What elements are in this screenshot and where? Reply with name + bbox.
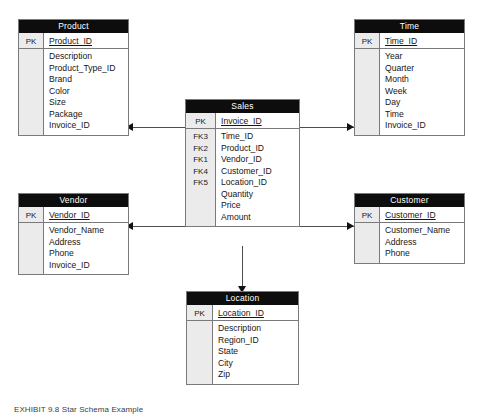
entity-product-pk-field: Product_ID — [44, 33, 128, 48]
entity-sales-pk-field: Invoice_ID — [216, 113, 299, 128]
field-row: Region_ID — [218, 335, 298, 347]
field-row: Description — [49, 51, 128, 63]
entity-product[interactable]: Product PK Product_ID Description Produc… — [18, 19, 129, 136]
entity-product-pk-row: PK Product_ID — [19, 33, 128, 49]
field-row: City — [218, 358, 298, 370]
entity-sales-body: FK3 FK2 FK1 FK4 FK5 Time_ID Product_ID V… — [186, 129, 299, 226]
entity-location-body: Description Region_ID State City Zip — [187, 321, 298, 384]
fk-tag: FK5 — [186, 177, 215, 189]
fk-tag: FK3 — [186, 131, 215, 143]
field-row: Vendor_ID — [221, 154, 299, 166]
entity-vendor-title: Vendor — [19, 194, 128, 207]
fk-tag: FK2 — [186, 143, 215, 155]
entity-customer-pk-tag: PK — [355, 207, 380, 222]
entity-vendor-pk-tag: PK — [19, 207, 44, 222]
field-row: Brand — [49, 74, 128, 86]
field-row: Product_Type_ID — [49, 63, 128, 75]
entity-product-key-column — [19, 49, 44, 135]
entity-sales-key-column: FK3 FK2 FK1 FK4 FK5 — [186, 129, 216, 226]
entity-customer-key-column — [355, 223, 380, 263]
fk-tag: FK4 — [186, 166, 215, 178]
entity-sales-pk-row: PK Invoice_ID — [186, 113, 299, 129]
entity-time-title: Time — [355, 20, 464, 33]
entity-sales-fields: Time_ID Product_ID Vendor_ID Customer_ID… — [216, 129, 299, 226]
entity-vendor-pk-field: Vendor_ID — [44, 207, 128, 222]
entity-customer[interactable]: Customer PK Customer_ID Customer_Name Ad… — [354, 193, 465, 264]
entity-customer-body: Customer_Name Address Phone — [355, 223, 464, 263]
entity-time-body: Year Quarter Month Week Day Time Invoice… — [355, 49, 464, 135]
field-row: Package — [49, 109, 128, 121]
field-row: Invoice_ID — [385, 120, 464, 132]
fk-tag — [186, 200, 215, 212]
connector-sales-to-customer — [300, 226, 354, 227]
connector-sales-to-product — [129, 127, 185, 128]
field-row: Price — [221, 200, 299, 212]
field-row: Address — [49, 237, 128, 249]
field-row: Year — [385, 51, 464, 63]
connector-sales-to-location — [242, 246, 243, 289]
connector-sales-to-vendor — [129, 226, 185, 227]
field-row: Month — [385, 74, 464, 86]
entity-product-body: Description Product_Type_ID Brand Color … — [19, 49, 128, 135]
fk-tag — [186, 189, 215, 201]
entity-time-pk-tag: PK — [355, 33, 380, 48]
field-row: Color — [49, 86, 128, 98]
entity-location-pk-row: PK Location_ID — [187, 305, 298, 321]
fk-tag: FK1 — [186, 154, 215, 166]
entity-time-pk-row: PK Time_ID — [355, 33, 464, 49]
entity-product-pk-tag: PK — [19, 33, 44, 48]
fk-tag — [186, 212, 215, 224]
entity-customer-pk-row: PK Customer_ID — [355, 207, 464, 223]
field-row: Address — [385, 237, 464, 249]
field-row: Quantity — [221, 189, 299, 201]
field-row: Time — [385, 109, 464, 121]
entity-product-title: Product — [19, 20, 128, 33]
entity-time[interactable]: Time PK Time_ID Year Quarter Month Week — [354, 19, 465, 136]
entity-customer-title: Customer — [355, 194, 464, 207]
field-row: Location_ID — [221, 177, 299, 189]
entity-customer-pk-field: Customer_ID — [380, 207, 464, 222]
field-row: Phone — [385, 248, 464, 260]
field-row: Description — [218, 323, 298, 335]
field-row: Invoice_ID — [49, 120, 128, 132]
diagram-canvas: Product PK Product_ID Description Produc… — [0, 0, 477, 415]
entity-vendor-body: Vendor_Name Address Phone Invoice_ID — [19, 223, 128, 274]
entity-customer-fields: Customer_Name Address Phone — [380, 223, 464, 263]
figure-caption: EXHIBIT 9.8 Star Schema Example — [14, 405, 143, 415]
field-row: Invoice_ID — [49, 260, 128, 272]
entity-location-title: Location — [187, 292, 298, 305]
entity-sales-title: Sales — [186, 100, 299, 113]
entity-location[interactable]: Location PK Location_ID Description Regi… — [186, 291, 299, 385]
entity-vendor[interactable]: Vendor PK Vendor_ID Vendor_Name Address … — [18, 193, 129, 275]
entity-location-fields: Description Region_ID State City Zip — [213, 321, 298, 384]
entity-vendor-key-column — [19, 223, 44, 274]
field-row: Product_ID — [221, 143, 299, 155]
field-row: Time_ID — [221, 131, 299, 143]
field-row: Customer_Name — [385, 225, 464, 237]
field-row: Amount — [221, 212, 299, 224]
field-row: Week — [385, 86, 464, 98]
arrow-head-customer — [347, 222, 354, 230]
entity-sales[interactable]: Sales PK Invoice_ID FK3 FK2 FK1 FK4 FK5 … — [185, 99, 300, 227]
field-row: Day — [385, 97, 464, 109]
entity-vendor-fields: Vendor_Name Address Phone Invoice_ID — [44, 223, 128, 274]
field-row: Customer_ID — [221, 166, 299, 178]
entity-time-fields: Year Quarter Month Week Day Time Invoice… — [380, 49, 464, 135]
entity-location-pk-field: Location_ID — [213, 305, 298, 320]
field-row: Vendor_Name — [49, 225, 128, 237]
field-row: Zip — [218, 369, 298, 381]
field-row: Quarter — [385, 63, 464, 75]
entity-vendor-pk-row: PK Vendor_ID — [19, 207, 128, 223]
field-row: Phone — [49, 248, 128, 260]
field-row: Size — [49, 97, 128, 109]
field-row: State — [218, 346, 298, 358]
entity-sales-pk-tag: PK — [186, 113, 216, 128]
entity-location-pk-tag: PK — [187, 305, 213, 320]
arrow-head-time — [347, 123, 354, 131]
entity-location-key-column — [187, 321, 213, 384]
connector-sales-to-time — [300, 127, 354, 128]
entity-time-key-column — [355, 49, 380, 135]
entity-time-pk-field: Time_ID — [380, 33, 464, 48]
entity-product-fields: Description Product_Type_ID Brand Color … — [44, 49, 128, 135]
